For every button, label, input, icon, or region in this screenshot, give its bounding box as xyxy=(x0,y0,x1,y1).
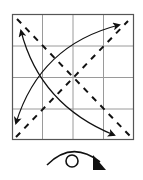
turn-over-icon xyxy=(47,152,106,170)
origami-diagram xyxy=(0,0,143,180)
diagonal-valley-bl-tr xyxy=(16,21,128,137)
